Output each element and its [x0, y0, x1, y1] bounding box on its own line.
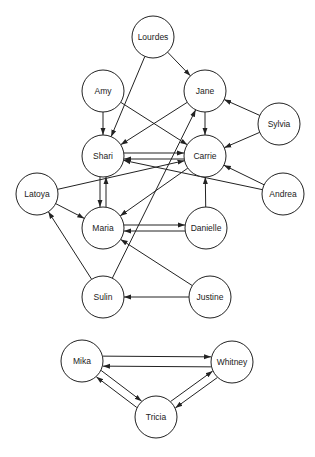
node-shari: Shari: [82, 135, 124, 177]
node-sylvia: Sylvia: [258, 103, 300, 145]
node-label: Amy: [95, 86, 113, 96]
edge-sylvia-to-carrie: [224, 132, 259, 147]
node-label: Shari: [93, 151, 113, 161]
node-label: Carrie: [193, 151, 216, 161]
edge-latoya-to-maria: [56, 204, 85, 219]
edge-whitney-to-tricia: [175, 378, 217, 408]
node-label: Sylvia: [268, 119, 291, 129]
nodes-layer: LourdesAmyJaneSylviaShariCarrieLatoyaAnd…: [16, 16, 304, 438]
edge-sulin-to-jane: [112, 110, 195, 278]
node-mika: Mika: [61, 340, 103, 382]
node-label: Sulin: [94, 292, 113, 302]
edge-tricia-to-mika: [96, 377, 137, 408]
edge-whitney-to-mika: [103, 366, 211, 367]
node-latoya: Latoya: [16, 173, 58, 215]
node-carrie: Carrie: [184, 135, 226, 177]
node-label: Mika: [73, 356, 91, 366]
edge-justine-to-maria: [121, 239, 193, 285]
node-danielle: Danielle: [185, 207, 227, 249]
node-jane: Jane: [184, 70, 226, 112]
node-justine: Justine: [189, 276, 231, 318]
edge-sylvia-to-jane: [224, 100, 260, 116]
edge-mika-to-tricia: [101, 370, 142, 401]
node-amy: Amy: [82, 70, 124, 112]
node-label: Danielle: [191, 223, 222, 233]
node-label: Latoya: [24, 189, 50, 199]
network-diagram: LourdesAmyJaneSylviaShariCarrieLatoyaAnd…: [0, 0, 315, 457]
node-andrea: Andrea: [262, 173, 304, 215]
node-label: Tricia: [146, 412, 167, 422]
node-lourdes: Lourdes: [132, 16, 174, 58]
node-maria: Maria: [82, 207, 124, 249]
edge-lourdes-to-jane: [168, 52, 191, 76]
node-sulin: Sulin: [82, 276, 124, 318]
node-whitney: Whitney: [211, 341, 253, 383]
node-label: Whitney: [217, 357, 248, 367]
edge-tricia-to-whitney: [171, 371, 213, 401]
node-tricia: Tricia: [135, 396, 177, 438]
edge-mika-to-whitney: [103, 356, 211, 357]
node-label: Jane: [196, 86, 215, 96]
node-label: Lourdes: [138, 32, 169, 42]
node-label: Justine: [197, 292, 224, 302]
node-label: Andrea: [269, 189, 297, 199]
edge-andrea-to-carrie: [224, 165, 264, 185]
edge-carrie-to-maria: [120, 168, 188, 216]
node-label: Maria: [92, 223, 114, 233]
